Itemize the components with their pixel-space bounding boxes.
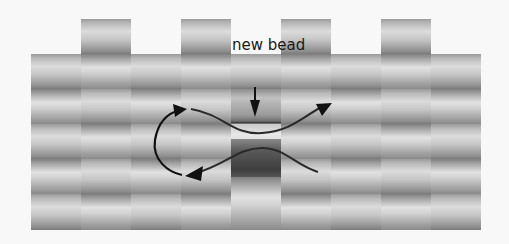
arrow-left-icon (185, 166, 203, 181)
down-arrow-icon (250, 87, 260, 117)
arrow-up-right-icon (173, 104, 187, 117)
upper-thread-path (191, 105, 325, 133)
lower-thread-path (196, 148, 318, 173)
turn-loop-path (155, 110, 182, 175)
peyote-stitch-diagram: new bead (0, 0, 509, 244)
thread-path-overlay (0, 0, 509, 244)
